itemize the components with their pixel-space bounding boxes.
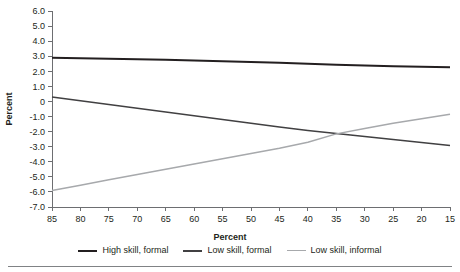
y-tick-label: 0 [40,97,45,107]
y-tick-label: 2.0 [32,67,45,77]
x-tick-label: 25 [388,214,398,224]
x-tick-label: 60 [189,214,199,224]
y-tick-label: -7.0 [29,202,45,212]
series-line [52,97,450,146]
x-tick-label: 65 [161,214,171,224]
legend-label: High skill, formal [102,246,168,255]
x-tick-label: 50 [246,214,256,224]
y-tick-label: 3.0 [32,51,45,61]
x-tick-label: 35 [331,214,341,224]
legend-line-swatch [287,250,306,251]
series-line [52,58,450,67]
series-line [52,114,450,190]
legend-item[interactable]: High skill, formal [78,246,168,255]
x-tick-label: 85 [47,214,57,224]
y-tick-label: -5.0 [29,172,45,182]
plot-area: 6.05.04.03.02.01.00-1.0-2.0-3.0-4.0-5.0-… [0,0,460,232]
legend-item[interactable]: Low skill, informal [287,246,382,255]
x-axis-tick-labels: 858075706560555045403530252015 [47,214,455,224]
y-tick-label: -2.0 [29,127,45,137]
chart-figure: 6.05.04.03.02.01.00-1.0-2.0-3.0-4.0-5.0-… [0,0,460,272]
y-tick-label: 6.0 [32,6,45,16]
x-tick-label: 70 [132,214,142,224]
y-axis-tick-labels: 6.05.04.03.02.01.00-1.0-2.0-3.0-4.0-5.0-… [29,6,45,212]
legend-items: High skill, formalLow skill, formalLow s… [0,246,460,255]
x-tick-label: 15 [445,214,455,224]
y-tick-label: 5.0 [32,21,45,31]
x-tick-label: 20 [417,214,427,224]
x-axis-tick-marks [52,207,450,211]
x-tick-label: 80 [75,214,85,224]
x-tick-label: 30 [360,214,370,224]
x-tick-label: 55 [218,214,228,224]
legend-item[interactable]: Low skill, formal [183,246,271,255]
y-tick-label: -3.0 [29,142,45,152]
legend-line-swatch [78,250,97,252]
x-axis-title: Percent [0,232,460,242]
data-series-group [52,58,450,191]
y-tick-label: -1.0 [29,112,45,122]
legend-label: Low skill, informal [311,246,382,255]
x-tick-label: 75 [104,214,114,224]
x-tick-label: 40 [303,214,313,224]
legend-line-swatch [183,250,202,252]
y-axis-tick-marks [48,11,52,207]
y-axis-title: Percent [4,92,14,125]
y-tick-label: 1.0 [32,82,45,92]
y-tick-label: -6.0 [29,187,45,197]
footer-divider [8,266,452,267]
legend-label: Low skill, formal [207,246,271,255]
y-tick-label: 4.0 [32,36,45,46]
y-tick-label: -4.0 [29,157,45,167]
line-chart-svg: 6.05.04.03.02.01.00-1.0-2.0-3.0-4.0-5.0-… [0,0,460,232]
x-tick-label: 45 [274,214,284,224]
